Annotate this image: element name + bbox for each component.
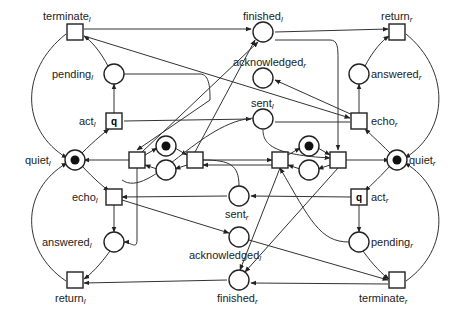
place-label: pendingl (52, 68, 93, 84)
transition-terminate-l (67, 24, 83, 40)
petri-net-canvas: qq (0, 0, 461, 316)
transition-enter-l (129, 152, 145, 168)
transition-label: actl (79, 115, 95, 131)
transition-label: echol (72, 191, 98, 207)
token-icon (71, 156, 80, 165)
transition-label: terminatel (43, 10, 91, 26)
place-acknowledged-l (229, 227, 249, 247)
token-icon (393, 156, 402, 165)
place-label: answeredl (42, 236, 91, 252)
transition-terminate-r (389, 272, 405, 288)
petri-net-diagram: qq finishedlacknowledgedrsentlpendinglan… (0, 0, 461, 316)
place-answered-r (349, 64, 369, 84)
transition-echo-l (106, 189, 122, 205)
place-label: finishedl (243, 10, 283, 26)
place-label: acknowledgedr (233, 56, 306, 72)
token-icon (305, 142, 314, 151)
place-label: sentr (225, 208, 248, 224)
place-label: quietr (409, 154, 436, 170)
transition-label: terminater (359, 292, 408, 308)
transition-label: returnl (55, 292, 86, 308)
transition-enter-r (330, 152, 346, 168)
transition-label: returnr (381, 10, 412, 26)
transition-exit-r (272, 152, 288, 168)
transition-exit-l (187, 152, 203, 168)
transition-return-l (67, 272, 83, 288)
place-label: answeredr (371, 68, 421, 84)
transition-inner-label: q (111, 116, 117, 127)
place-free-r (299, 160, 319, 180)
token-icon (162, 142, 171, 151)
place-label: finishedr (217, 292, 258, 308)
transition-echo-r (351, 113, 367, 129)
place-label: sentl (251, 97, 274, 113)
place-label: pendingr (371, 236, 413, 252)
place-label: quietl (25, 154, 51, 170)
place-answered-l (104, 232, 124, 252)
place-finished-r (229, 270, 249, 290)
transition-label: echor (371, 115, 398, 131)
place-sent-r (229, 186, 249, 206)
transition-return-r (389, 24, 405, 40)
place-free-l (156, 160, 176, 180)
transition-inner-label: q (356, 192, 362, 203)
place-pending-r (349, 232, 369, 252)
place-label: acknowledgedl (189, 249, 261, 265)
place-pending-l (104, 64, 124, 84)
transition-label: actr (371, 191, 388, 207)
